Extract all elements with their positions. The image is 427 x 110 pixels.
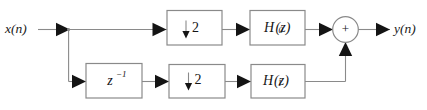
summing-junction-sign: + <box>342 21 349 36</box>
diagram-canvas: 2 H 0 (z) + z −1 2 H 1 (z) <box>0 0 427 110</box>
arrowhead-output <box>376 23 390 36</box>
filter-h1-arg: (z) <box>274 73 289 89</box>
output-label: y(n) <box>392 21 416 36</box>
filter-h0-label: H 0 (z) <box>263 20 291 36</box>
filter-h0-arg: (z) <box>276 20 291 36</box>
arrowhead-to-h0 <box>236 23 250 36</box>
signal-flow-diagram: 2 H 0 (z) + z −1 2 H 1 (z) <box>0 0 427 110</box>
downsampler-bottom-factor: 2 <box>195 72 202 87</box>
input-label: x(n) <box>4 21 27 36</box>
arrowhead-branch-to-delay <box>72 75 86 88</box>
block-delay[interactable] <box>86 64 142 99</box>
downsampler-top-factor: 2 <box>192 20 199 35</box>
branch-node-dot <box>67 28 70 31</box>
arrowhead-to-downsampler-bottom <box>155 75 169 88</box>
arrowhead-to-adder-bottom <box>339 42 352 56</box>
filter-h0-base: H <box>263 20 275 35</box>
filter-h1-base: H <box>262 73 274 88</box>
filter-h1-label: H 1 (z) <box>262 73 289 89</box>
arrowhead-to-h1 <box>237 75 251 88</box>
arrowhead-to-downsampler-top <box>153 23 167 36</box>
arrowhead-to-adder-top <box>319 23 333 36</box>
delay-base: z <box>106 73 113 88</box>
delay-exponent: −1 <box>116 69 127 79</box>
